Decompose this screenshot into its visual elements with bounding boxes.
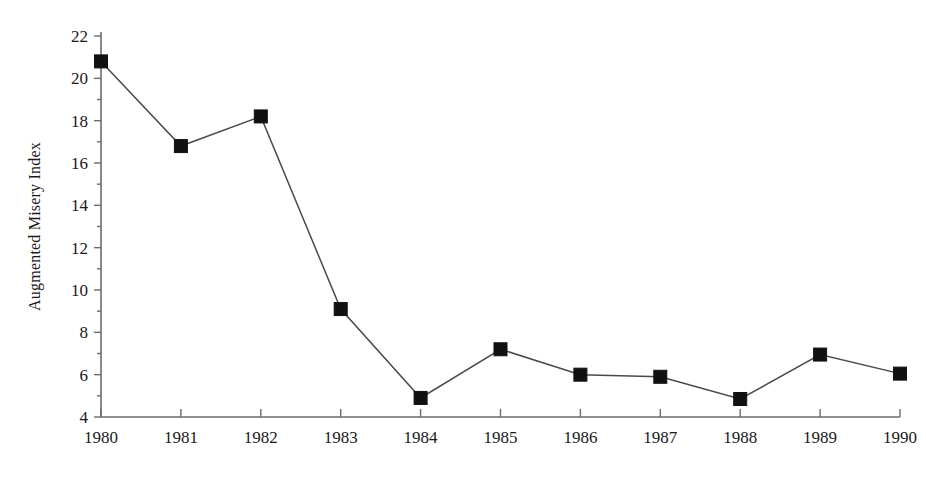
- data-point-marker: [894, 367, 907, 380]
- y-tick-label: 4: [80, 408, 89, 427]
- x-tick-label: 1990: [883, 428, 917, 447]
- data-point-marker: [334, 303, 347, 316]
- line-chart-canvas: 46810121416182022 1980198119821983198419…: [0, 0, 926, 480]
- data-point-marker: [814, 348, 827, 361]
- y-tick-label: 6: [80, 366, 89, 385]
- y-tick-label: 8: [80, 323, 89, 342]
- data-point-marker: [95, 55, 108, 68]
- y-tick-label: 20: [71, 69, 88, 88]
- y-tick-label: 14: [71, 196, 89, 215]
- chart-figure: 46810121416182022 1980198119821983198419…: [0, 0, 926, 480]
- data-point-marker: [494, 343, 507, 356]
- y-tick-label: 16: [71, 154, 88, 173]
- x-tick-label: 1981: [164, 428, 198, 447]
- data-point-marker: [574, 368, 587, 381]
- x-tick-label: 1986: [563, 428, 597, 447]
- y-axis-title: Augmented Misery Index: [26, 142, 44, 311]
- y-tick-label: 22: [71, 27, 88, 46]
- data-point-marker: [414, 391, 427, 404]
- y-tick-label: 18: [71, 112, 88, 131]
- x-tick-label: 1989: [803, 428, 837, 447]
- y-tick-label: 12: [71, 239, 88, 258]
- x-tick-label: 1988: [723, 428, 757, 447]
- x-tick-label: 1987: [643, 428, 678, 447]
- data-point-marker: [254, 110, 267, 123]
- y-tick-label: 10: [71, 281, 88, 300]
- data-series-augmented-misery-index: [95, 55, 907, 406]
- x-tick-label: 1985: [484, 428, 518, 447]
- data-point-marker: [654, 370, 667, 383]
- x-tick-label: 1982: [244, 428, 278, 447]
- x-tick-label: 1984: [404, 428, 439, 447]
- x-tick-label: 1983: [324, 428, 358, 447]
- data-point-marker: [734, 393, 747, 406]
- x-tick-label: 1980: [84, 428, 118, 447]
- data-point-marker: [174, 140, 187, 153]
- y-axis: 46810121416182022: [71, 27, 101, 427]
- y-axis-title-label: Augmented Misery Index: [26, 142, 44, 311]
- x-axis: 1980198119821983198419851986198719881989…: [84, 409, 917, 447]
